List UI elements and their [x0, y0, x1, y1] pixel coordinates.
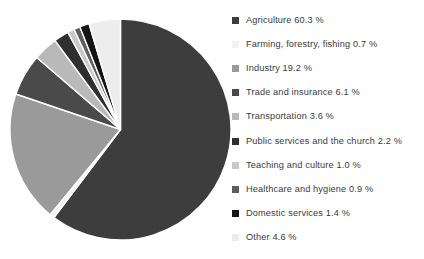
legend-swatch-icon	[232, 41, 239, 48]
legend-item[interactable]: Teaching and culture 1.0 %	[232, 157, 361, 173]
legend-item-label: Healthcare and hygiene 0.9 %	[246, 184, 373, 195]
legend-item[interactable]: Agriculture 60.3 %	[232, 12, 324, 28]
legend-item[interactable]: Industry 19.2 %	[232, 60, 312, 76]
legend-item[interactable]: Domestic services 1.4 %	[232, 206, 350, 222]
legend-swatch-icon	[232, 162, 239, 169]
pie-chart-figure: Agriculture 60.3 %Farming, forestry, fis…	[0, 0, 424, 259]
legend-item-label: Farming, forestry, fishing 0.7 %	[246, 39, 377, 50]
pie-chart-plot	[10, 16, 232, 244]
legend-item[interactable]: Other 4.6 %	[232, 230, 297, 246]
legend-swatch-icon	[232, 138, 239, 145]
legend-swatch-icon	[232, 113, 239, 120]
legend-item[interactable]: Healthcare and hygiene 0.9 %	[232, 181, 373, 197]
legend-swatch-icon	[232, 234, 239, 241]
legend-item-label: Teaching and culture 1.0 %	[246, 160, 361, 171]
legend-item[interactable]: Trade and insurance 6.1 %	[232, 85, 360, 101]
chart-legend: Agriculture 60.3 %Farming, forestry, fis…	[232, 12, 422, 252]
legend-item[interactable]: Farming, forestry, fishing 0.7 %	[232, 36, 377, 52]
legend-item-label: Domestic services 1.4 %	[246, 208, 350, 219]
legend-item[interactable]: Transportation 3.6 %	[232, 109, 334, 125]
legend-item[interactable]: Public services and the church 2.2 %	[232, 133, 402, 149]
legend-item-label: Public services and the church 2.2 %	[246, 136, 402, 147]
legend-swatch-icon	[232, 89, 239, 96]
legend-swatch-icon	[232, 210, 239, 217]
pie-slice-group	[10, 19, 231, 240]
pie-svg	[10, 16, 232, 244]
legend-swatch-icon	[232, 17, 239, 24]
legend-item-label: Other 4.6 %	[246, 232, 297, 243]
legend-swatch-icon	[232, 186, 239, 193]
legend-item-label: Agriculture 60.3 %	[246, 15, 324, 26]
legend-item-label: Trade and insurance 6.1 %	[246, 87, 360, 98]
legend-swatch-icon	[232, 65, 239, 72]
legend-item-label: Transportation 3.6 %	[246, 111, 334, 122]
legend-item-label: Industry 19.2 %	[246, 63, 312, 74]
